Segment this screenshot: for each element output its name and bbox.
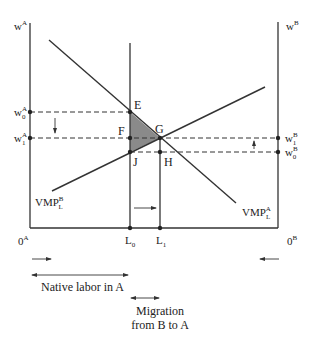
point-e-label: E [134, 98, 141, 112]
native-labor-label: Native labor in A [41, 280, 124, 294]
point-j-label: J [133, 155, 138, 169]
left-axis-label: wA [14, 19, 27, 32]
vmp-b-label: VMPBL [35, 195, 64, 211]
migration-label-line2: from B to A [131, 318, 189, 332]
migration-label-line1: Migration [136, 304, 184, 318]
right-axis-label: wB [286, 19, 299, 32]
w0B-label: wB0 [285, 145, 298, 161]
origin-b-label: 0B [287, 234, 298, 247]
point-g-label: G [155, 122, 164, 136]
l1-label: L1 [156, 234, 167, 249]
point-h-label: H [164, 155, 173, 169]
w0A-label: wA0 [14, 105, 27, 121]
point-f-label: F [118, 124, 125, 138]
w1A-label: wA1 [14, 131, 27, 147]
labor-migration-diagram: wA wB 0A 0B wA0 wA1 wB1 wB0 E F G J H VM… [0, 0, 313, 344]
vmp-a-label: VMPAL [242, 205, 271, 221]
l0-label: L0 [125, 234, 136, 249]
origin-a-label: 0A [18, 234, 29, 247]
